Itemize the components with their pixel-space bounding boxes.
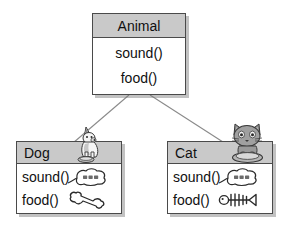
method-row-cat-food: food() [168,189,272,212]
class-members-dog: sound() food() [17,164,121,214]
diagram-canvas: Animal sound() food() Dog sound() [0,0,292,232]
method-row-cat-sound: sound() [168,165,272,188]
class-name-animal: Animal [93,14,185,38]
class-name-dog: Dog [17,142,121,164]
speech-bubble-meow-icon [218,167,260,187]
method-cat-sound: sound() [173,169,220,185]
speech-bubble-bark-icon [67,167,109,187]
fish-bone-icon [218,190,260,210]
bone-icon [67,189,107,211]
class-members-animal: sound() food() [93,38,185,95]
class-box-animal[interactable]: Animal sound() food() [92,13,186,95]
method-cat-food: food() [173,192,210,208]
class-box-cat[interactable]: Cat sound() food() [167,141,273,214]
inheritance-line-animal-cat [150,95,223,142]
method-animal-sound: sound() [115,45,162,61]
method-row-dog-sound: sound() [17,165,121,188]
class-name-cat: Cat [168,142,272,164]
inheritance-line-animal-dog [73,95,129,143]
method-dog-food: food() [22,192,59,208]
method-row-dog-food: food() [17,189,121,212]
class-members-cat: sound() food() [168,164,272,214]
method-dog-sound: sound() [22,169,69,185]
method-animal-food: food() [121,70,158,86]
class-box-dog[interactable]: Dog sound() food() [16,141,122,214]
